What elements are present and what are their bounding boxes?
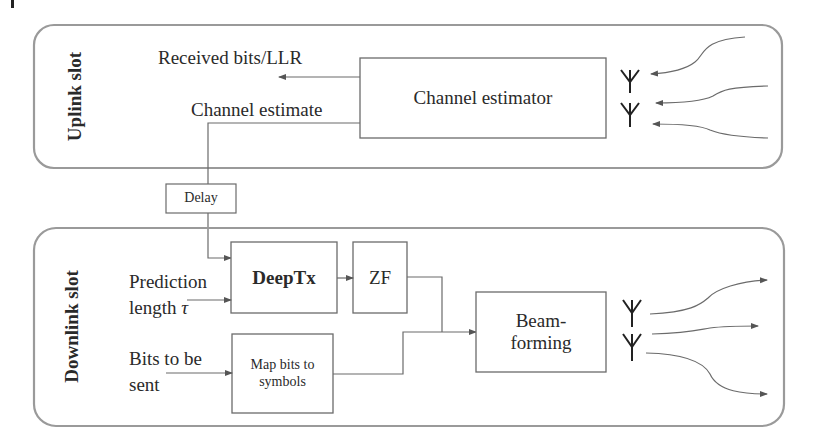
bits-label-line1: Bits to be	[129, 349, 202, 368]
downlink-slot-frame	[34, 228, 784, 426]
incoming-signal-arrow	[656, 86, 768, 103]
received-bits-label: Received bits/LLR	[158, 48, 302, 67]
channel-estimate-label: Channel estimate	[191, 100, 322, 119]
downlink-slot-label: Downlink slot	[62, 247, 81, 407]
zf-output-line	[407, 277, 442, 332]
bits-label-line2: sent	[129, 375, 160, 394]
outgoing-signal-arrow	[650, 280, 767, 314]
symbols-to-beamforming-arrow	[333, 332, 476, 374]
beamforming-line2: forming	[510, 332, 571, 354]
outgoing-signal-arrow	[652, 326, 758, 334]
downlink-antenna-icon	[623, 300, 641, 327]
delay-label: Delay	[166, 184, 236, 213]
map-bits-label: Map bits to symbols	[232, 334, 333, 413]
zf-label: ZF	[353, 242, 407, 313]
prediction-length-word: length	[129, 297, 177, 318]
incoming-signal-arrow	[653, 124, 768, 138]
prediction-label-line2: length τ	[129, 298, 188, 317]
incoming-signal-arrow	[651, 37, 745, 74]
channel-estimate-line	[208, 123, 360, 184]
channel-estimator-label: Channel estimator	[360, 58, 606, 138]
prediction-label-line1: Prediction	[129, 272, 207, 291]
corner-mark	[11, 0, 14, 8]
tau-symbol: τ	[181, 297, 188, 318]
outgoing-signal-arrow	[646, 353, 767, 394]
map-bits-line1: Map bits to	[251, 357, 315, 373]
beamforming-label: Beam- forming	[476, 292, 606, 372]
map-bits-line2: symbols	[259, 374, 306, 390]
uplink-slot-label: Uplink slot	[65, 37, 84, 157]
downlink-antenna-icon	[623, 334, 641, 361]
uplink-antenna-icon	[621, 103, 639, 127]
deeptx-label: DeepTx	[231, 242, 337, 313]
delay-to-deeptx-arrow	[208, 213, 231, 258]
beamforming-line1: Beam-	[516, 310, 567, 332]
uplink-antenna-icon	[621, 70, 639, 93]
